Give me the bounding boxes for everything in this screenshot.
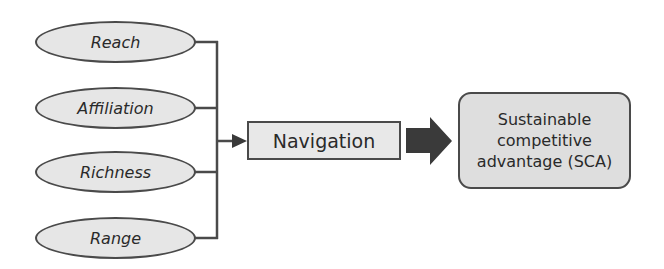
- sca-line-3: advantage (SCA): [477, 151, 612, 172]
- arrowhead-icon: [232, 134, 247, 148]
- navigation-label: Navigation: [273, 130, 375, 152]
- sca-line-1: Sustainable: [498, 109, 592, 130]
- navigation-box: Navigation: [247, 121, 401, 160]
- big-arrow-icon: [406, 117, 452, 165]
- input-label: Affiliation: [77, 99, 153, 118]
- input-label: Reach: [91, 33, 141, 52]
- input-label: Range: [90, 229, 141, 248]
- input-range: Range: [35, 217, 196, 259]
- input-label: Richness: [80, 163, 151, 182]
- input-richness: Richness: [35, 151, 196, 193]
- sca-line-2: competitive: [497, 130, 592, 151]
- sca-box: Sustainable competitive advantage (SCA): [458, 92, 631, 189]
- input-affiliation: Affiliation: [35, 87, 196, 129]
- input-reach: Reach: [35, 21, 196, 63]
